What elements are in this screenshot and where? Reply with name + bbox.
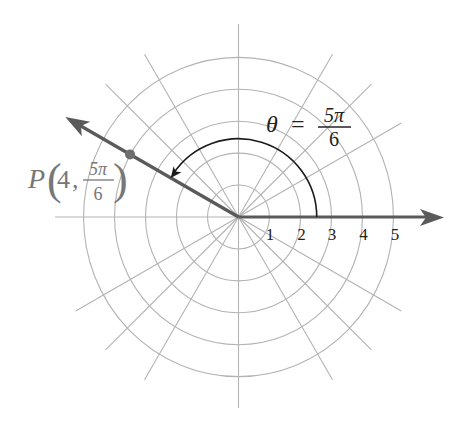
tick-label-5: 5 <box>391 225 400 244</box>
point-r: 4 <box>57 165 70 194</box>
theta-symbol: θ <box>266 111 278 137</box>
close-paren: ) <box>113 155 128 204</box>
polar-axis-tick-labels: 1 2 3 4 5 <box>266 225 400 244</box>
grid-radial-300 <box>239 217 333 380</box>
grid-radial-240 <box>145 217 239 380</box>
tick-label-3: 3 <box>328 225 337 244</box>
tick-label-4: 4 <box>359 225 368 244</box>
point-comma: , <box>72 165 79 194</box>
grid-radial-330 <box>239 217 402 311</box>
angle-numerator: 5π <box>324 104 345 126</box>
tick-label-1: 1 <box>266 225 275 244</box>
equals-sign: = <box>291 111 305 137</box>
grid-radial-225 <box>106 217 239 350</box>
tick-label-2: 2 <box>297 225 306 244</box>
polar-plot: 1 2 3 4 5 θ = 5π 6 P ( 4 , 5π 6 ) <box>0 0 464 430</box>
grid-radial-120 <box>145 54 239 217</box>
angle-denominator: 6 <box>329 128 339 150</box>
point-p-label: P ( 4 , 5π 6 ) <box>27 155 128 204</box>
terminal-ray-arrowhead-icon <box>61 110 90 137</box>
grid-radial-210 <box>76 217 239 311</box>
point-name: P <box>27 163 45 194</box>
point-theta-denominator: 6 <box>94 184 103 204</box>
point-theta-numerator: 5π <box>89 159 108 179</box>
angle-label: θ = 5π 6 <box>262 100 356 150</box>
